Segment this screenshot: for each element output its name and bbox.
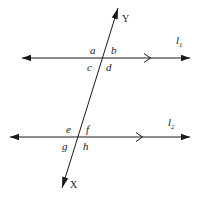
line-l1-left-arrowhead xyxy=(22,55,31,61)
transversal-endpoint-label-x: X xyxy=(70,179,78,190)
angle-g-label: g xyxy=(62,140,68,152)
transversal-bottom-arrowhead xyxy=(62,177,68,188)
transversal-endpoint-label-y: Y xyxy=(122,13,129,24)
line-l1-label-subscript: 1 xyxy=(179,41,183,49)
geometry-diagram: l1 l2 Y X abcdefgh xyxy=(0,0,200,198)
angle-c-label: c xyxy=(87,61,92,73)
angle-a-label: a xyxy=(90,44,96,56)
angle-e-label: e xyxy=(66,123,71,135)
geometry-canvas: l1 l2 Y X abcdefgh xyxy=(0,0,200,198)
angle-f-label: f xyxy=(86,123,91,135)
line-l2-label: l2 xyxy=(168,116,175,131)
line-l1-right-arrowhead xyxy=(181,55,190,61)
line-labels-group: l1 l2 xyxy=(168,34,183,131)
line-l2-left-arrowhead xyxy=(10,134,19,140)
ray-endpoint-labels-group: Y X xyxy=(70,13,129,190)
transversal-top-arrowhead xyxy=(112,8,118,19)
line-l1-label: l1 xyxy=(176,34,183,49)
angle-b-label: b xyxy=(111,44,117,56)
transversal-group xyxy=(62,8,118,188)
transversal-shaft xyxy=(62,8,118,188)
line-l2-label-subscript: 2 xyxy=(171,123,175,131)
angle-d-label: d xyxy=(106,61,112,73)
angle-h-label: h xyxy=(83,140,89,152)
line-l2-right-arrowhead xyxy=(181,134,190,140)
line-l2-group xyxy=(10,133,190,142)
